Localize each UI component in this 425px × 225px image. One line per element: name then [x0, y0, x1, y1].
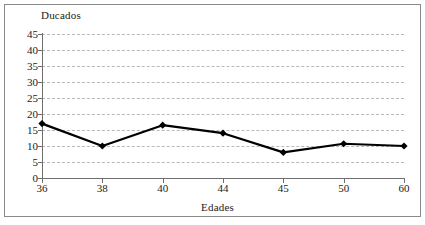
y-tick-label: 10	[12, 141, 38, 152]
x-tick-label: 50	[338, 182, 349, 194]
y-tick-mark	[38, 146, 43, 147]
y-tick-label: 30	[12, 77, 38, 88]
y-tick-mark	[38, 34, 43, 35]
data-point-marker	[159, 122, 166, 129]
data-point-marker	[280, 149, 287, 156]
x-axis-tick-labels: 36384044455060	[5, 182, 425, 198]
y-tick-label: 20	[12, 109, 38, 120]
plot-area	[42, 34, 404, 178]
y-tick-label: 25	[12, 93, 38, 104]
x-axis-title: Edades	[5, 201, 425, 213]
x-tick-label: 60	[399, 182, 410, 194]
y-tick-label: 5	[12, 157, 38, 168]
y-tick-mark	[38, 114, 43, 115]
x-tick-label: 38	[97, 182, 108, 194]
y-axis-title: Ducados	[41, 9, 81, 21]
y-tick-label: 45	[12, 29, 38, 40]
x-tick-label: 44	[218, 182, 229, 194]
y-tick-label: 35	[12, 61, 38, 72]
chart-frame: Ducados 051015202530354045 3638404445506…	[4, 4, 421, 217]
y-tick-label: 15	[12, 125, 38, 136]
x-tick-label: 36	[37, 182, 48, 194]
y-tick-label: 40	[12, 45, 38, 56]
data-point-marker	[99, 142, 106, 149]
data-point-marker	[400, 142, 407, 149]
y-tick-mark	[38, 98, 43, 99]
y-axis-tick-labels: 051015202530354045	[11, 34, 38, 178]
data-series-line	[42, 34, 404, 178]
y-tick-mark	[38, 50, 43, 51]
y-tick-mark	[38, 66, 43, 67]
data-point-marker	[340, 140, 347, 147]
y-tick-mark	[38, 130, 43, 131]
data-point-marker	[219, 130, 226, 137]
y-tick-mark	[38, 82, 43, 83]
x-tick-label: 45	[278, 182, 289, 194]
series-line	[42, 124, 404, 153]
x-tick-label: 40	[157, 182, 168, 194]
y-tick-mark	[38, 162, 43, 163]
